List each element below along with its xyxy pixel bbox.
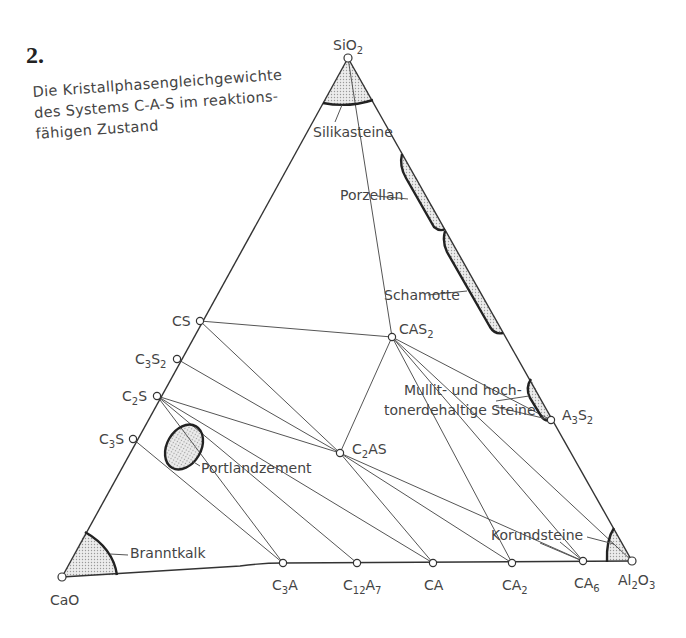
- point-c3s2: [173, 355, 180, 362]
- point-c2as: [336, 449, 343, 456]
- point-al2o3: [628, 557, 636, 565]
- label-ca: CA: [424, 577, 444, 593]
- label-cao: CaO: [50, 592, 79, 608]
- label-branntkalk: Branntkalk: [130, 545, 207, 561]
- label-cs: CS: [172, 313, 191, 329]
- label-al2o3: Al2O3: [618, 572, 655, 591]
- label-sio2: SiO2: [333, 37, 363, 56]
- label-mullit-line1: Mullit- und hoch-: [404, 382, 522, 398]
- label-schamotte: Schamotte: [384, 287, 460, 303]
- label-c3s: C3S: [99, 431, 124, 450]
- point-sio2: [344, 54, 352, 62]
- label-portlandzement: Portlandzement: [201, 460, 312, 476]
- label-c2as: C2AS: [352, 441, 387, 460]
- label-a3s2: A3S2: [562, 407, 593, 426]
- edge-bottom: [62, 561, 632, 577]
- label-cas2: CAS2: [399, 321, 434, 340]
- point-cao: [58, 573, 66, 581]
- label-mullit-line2: tonerdehaltige Steine: [384, 402, 536, 418]
- point-c2s: [153, 392, 160, 399]
- point-cas2: [388, 333, 395, 340]
- label-ca2: CA2: [502, 577, 528, 596]
- point-ca6: [579, 557, 586, 564]
- label-c3a: C3A: [272, 577, 298, 596]
- point-c3a: [279, 559, 286, 566]
- point-ca2: [508, 559, 515, 566]
- label-silikasteine: Silikasteine: [313, 124, 393, 140]
- point-a3s2: [547, 416, 554, 423]
- point-c12a7: [353, 559, 360, 566]
- point-c3s: [129, 435, 136, 442]
- label-c3s2: C3S2: [135, 351, 166, 370]
- leader-lines: [110, 105, 614, 560]
- label-korundsteine: Korundsteine: [491, 527, 583, 543]
- label-c2s: C2S: [122, 388, 147, 407]
- label-ca6: CA6: [574, 575, 600, 594]
- label-porzellan: Porzellan: [340, 187, 403, 203]
- point-ca: [429, 559, 436, 566]
- ternary-phase-diagram: SiO2 CaO Al2O3 CS C3S2 C2S C3S C3A C12A7…: [0, 0, 686, 638]
- point-cs: [196, 317, 203, 324]
- region-silikasteine: [323, 58, 373, 105]
- label-c12a7: C12A7: [343, 577, 381, 596]
